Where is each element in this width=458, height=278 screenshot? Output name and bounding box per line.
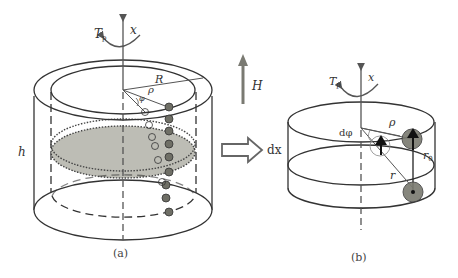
label-torque-a: Tp bbox=[94, 28, 107, 42]
field-arrow bbox=[238, 54, 248, 104]
label-phi-a: φ bbox=[139, 95, 145, 103]
label-axis-b: x bbox=[368, 72, 374, 83]
figure-stage: Tp x R ρ φ h (a) H dx Tp x ρ dφ r0 r (b) bbox=[0, 0, 458, 278]
hollow-arrow bbox=[222, 138, 262, 162]
label-H: H bbox=[252, 80, 262, 92]
label-r: r bbox=[390, 170, 395, 181]
label-height: h bbox=[18, 146, 26, 158]
panel-b-balls bbox=[381, 129, 423, 202]
label-r0: r0 bbox=[423, 150, 433, 163]
diagram-svg bbox=[0, 0, 458, 278]
label-rho-b: ρ bbox=[389, 117, 395, 128]
caption-a: (a) bbox=[113, 248, 128, 259]
label-rho-a: ρ bbox=[148, 85, 154, 95]
label-dx: dx bbox=[267, 144, 281, 156]
label-torque-b: Tp bbox=[329, 76, 341, 89]
label-dphi: dφ bbox=[339, 128, 352, 138]
label-R: R bbox=[155, 74, 163, 85]
caption-b: (b) bbox=[351, 252, 367, 263]
label-axis-a: x bbox=[130, 24, 137, 36]
panel-a-cylinder bbox=[34, 18, 212, 240]
